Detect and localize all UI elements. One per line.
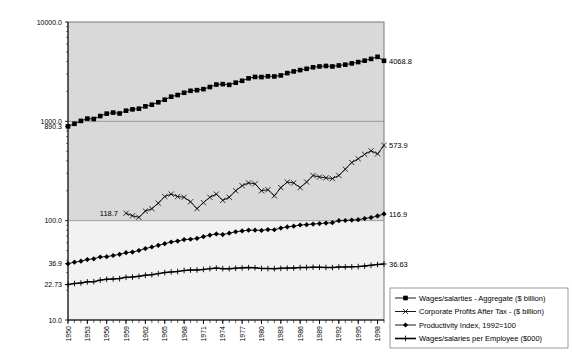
marker-square — [104, 111, 109, 116]
marker-square — [291, 69, 296, 74]
series-end-label: 573.9 — [389, 141, 408, 150]
y-tick-label: 10.0 — [48, 317, 62, 324]
marker-square — [330, 64, 335, 69]
plot-background-lower — [68, 221, 384, 320]
marker-square — [79, 119, 84, 124]
x-tick-label: 1956 — [103, 326, 110, 342]
x-tick-label: 1980 — [258, 326, 265, 342]
marker-square — [188, 88, 193, 93]
marker-square — [227, 83, 232, 88]
marker-square — [201, 87, 206, 92]
x-tick-label: 1968 — [181, 326, 188, 342]
y-tick-label: 890.3 — [44, 123, 62, 130]
marker-square — [233, 80, 238, 85]
legend-label: Wages/salaries per Employee ($000) — [419, 334, 543, 343]
marker-square — [66, 124, 71, 129]
marker-square — [195, 88, 200, 93]
marker-square — [98, 114, 103, 119]
marker-square — [382, 58, 387, 63]
marker-square — [324, 64, 329, 69]
marker-square — [266, 74, 271, 79]
legend-label: Productivity Index, 1992=100 — [419, 321, 516, 330]
x-tick-label: 1950 — [65, 326, 72, 342]
marker-square — [72, 121, 77, 126]
marker-square — [356, 60, 361, 65]
x-tick-label: 1989 — [316, 326, 323, 342]
x-tick-label: 1971 — [200, 326, 207, 342]
inline-annotation: 118.7 — [100, 209, 118, 218]
marker-square — [124, 108, 129, 113]
marker-square — [362, 58, 367, 63]
marker-square — [85, 116, 90, 121]
marker-square — [175, 93, 180, 98]
marker-square — [285, 71, 290, 76]
marker-square — [220, 82, 225, 87]
marker-square — [311, 65, 316, 70]
marker-square — [272, 74, 277, 79]
x-tick-label: 1986 — [297, 326, 304, 342]
marker-square — [369, 57, 374, 62]
marker-square — [169, 94, 174, 99]
y-tick-label: 22.73 — [44, 281, 62, 288]
x-tick-label: 1953 — [84, 326, 91, 342]
marker-square — [349, 61, 354, 66]
legend-label: Corporate Profits After Tax - ($ billion… — [419, 307, 544, 316]
marker-square — [240, 78, 245, 83]
marker-square — [111, 110, 116, 115]
x-tick-label: 1998 — [374, 326, 381, 342]
series-end-label: 4068.8 — [389, 57, 412, 66]
marker-square — [137, 106, 142, 111]
y-tick-label: 100.0 — [44, 217, 62, 224]
series-end-label: 116.9 — [389, 210, 407, 219]
marker-square — [253, 75, 258, 80]
x-tick-label: 1977 — [239, 326, 246, 342]
marker-square — [317, 64, 322, 69]
marker-square — [208, 85, 213, 90]
marker-square — [343, 62, 348, 67]
marker-square — [279, 73, 284, 78]
legend-label: Wages/salarties - Aggregate ($ billion) — [419, 294, 546, 303]
series-end-label: 36.63 — [389, 260, 408, 269]
line-chart: 10000.01000.0890.3100.036.922.7310.01950… — [0, 0, 572, 363]
marker-square — [298, 68, 303, 73]
marker-square — [156, 100, 161, 105]
marker-square — [337, 63, 342, 68]
x-tick-label: 1965 — [161, 326, 168, 342]
x-tick-label: 1959 — [123, 326, 130, 342]
x-tick-label: 1992 — [335, 326, 342, 342]
marker-square — [117, 111, 122, 116]
y-tick-label: 36.9 — [48, 260, 62, 267]
marker-square — [375, 55, 380, 60]
x-tick-label: 1983 — [277, 326, 284, 342]
x-tick-label: 1995 — [355, 326, 362, 342]
marker-square — [162, 97, 167, 102]
x-tick-label: 1974 — [219, 326, 226, 342]
marker-square — [143, 104, 148, 109]
marker-square — [304, 66, 309, 71]
marker-square — [150, 102, 155, 107]
y-tick-label: 10000.0 — [37, 19, 62, 26]
marker-square — [259, 75, 264, 80]
marker-square — [182, 90, 187, 95]
x-tick-label: 1962 — [142, 326, 149, 342]
chart-container: 10000.01000.0890.3100.036.922.7310.01950… — [0, 0, 572, 363]
marker-square — [403, 296, 408, 301]
marker-square — [91, 117, 96, 122]
marker-square — [214, 82, 219, 87]
marker-square — [130, 107, 135, 112]
marker-square — [246, 76, 251, 81]
